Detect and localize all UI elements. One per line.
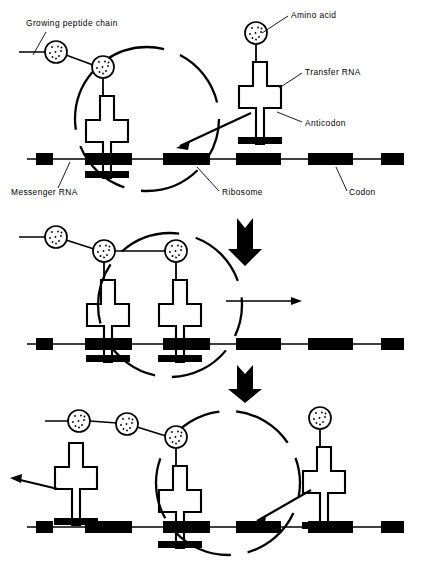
codon-block [236, 521, 281, 533]
trna-incoming-right [302, 447, 346, 529]
label-messenger-rna: Messenger RNA [11, 187, 78, 197]
codon-block [36, 153, 53, 165]
arrow-trna-exits-left [10, 474, 58, 489]
amino-acid-circle [92, 56, 114, 78]
amino-acid-circle [116, 413, 138, 435]
leader-messenger-rna [58, 162, 70, 188]
codon-block [163, 521, 210, 533]
messenger-rna-strand-panel2 [27, 338, 404, 350]
amino-acid-circle [165, 240, 187, 262]
anticodon-bar [85, 171, 129, 178]
codon-block [85, 153, 132, 165]
amino-acid-circle [93, 240, 115, 262]
leader-codon [336, 167, 347, 191]
translation-diagram: Growing peptide chain Amino acid Transfe… [0, 0, 423, 579]
leader-amino-acid [262, 16, 288, 33]
arrow-trna-entering-panel3 [252, 490, 311, 526]
anticodon-bar [158, 355, 202, 362]
leader-anticodon [277, 112, 302, 122]
codon-block [36, 338, 53, 350]
trna-incoming-right [238, 62, 282, 144]
trna-departing-left [54, 443, 98, 525]
amino-acid-circle [309, 407, 331, 429]
codon-block [381, 521, 404, 533]
panel-translocation [10, 365, 404, 555]
amino-acid-circle [68, 410, 90, 432]
codon-block [163, 153, 210, 165]
label-codon: Codon [349, 187, 376, 197]
codon-block [236, 338, 281, 350]
arrow-ribosome-moves-right [226, 297, 302, 305]
amino-acid-circle [45, 41, 67, 63]
leader-transfer-rna [279, 73, 302, 88]
codon-block [381, 153, 404, 165]
codon-block [163, 338, 210, 350]
anticodon-bar [86, 355, 130, 362]
label-growing-peptide-chain: Growing peptide chain [26, 18, 118, 28]
anticodon-bar [158, 541, 202, 548]
codon-block [236, 153, 281, 165]
label-anticodon: Anticodon [305, 118, 346, 128]
anticodon-bar [238, 137, 282, 144]
leader-ribosome [197, 167, 219, 191]
codon-block [36, 521, 53, 533]
diagram-canvas: Growing peptide chain Amino acid Transfe… [0, 0, 423, 579]
codon-block [381, 338, 404, 350]
amino-acid-circle [45, 226, 67, 248]
codon-block [308, 153, 353, 165]
amino-acid-circle [165, 426, 187, 448]
arrow-step-down-1 [228, 218, 262, 266]
codon-block [308, 338, 353, 350]
label-transfer-rna: Transfer RNA [305, 67, 361, 77]
panel-elongation [19, 218, 404, 377]
codon-block [85, 521, 132, 533]
panel-initiation: Growing peptide chain Amino acid Transfe… [11, 10, 404, 197]
codon-block [308, 521, 353, 533]
label-ribosome: Ribosome [222, 187, 263, 197]
label-amino-acid: Amino acid [291, 10, 336, 20]
amino-acid-circle [245, 22, 267, 44]
growing-peptide-chain-panel3 [45, 421, 176, 466]
arrow-step-down-2 [228, 365, 262, 403]
codon-block [85, 338, 132, 350]
